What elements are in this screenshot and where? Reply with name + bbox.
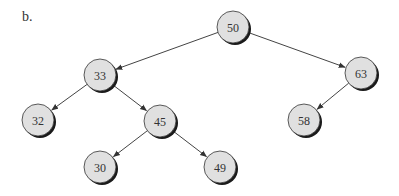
node-value: 49 — [214, 161, 226, 175]
tree-diagram: b. 5033633245583049 — [0, 0, 399, 196]
nodes: 5033633245583049 — [22, 11, 379, 185]
edge-45-to-49 — [173, 131, 207, 157]
edge-45-to-30 — [113, 131, 147, 157]
node-value: 33 — [94, 69, 106, 83]
node-value: 32 — [32, 114, 44, 128]
tree-node-50: 50 — [217, 11, 251, 45]
edge-50-to-63 — [248, 32, 345, 67]
tree-node-58: 58 — [288, 104, 322, 138]
node-value: 45 — [154, 115, 166, 129]
tree-node-45: 45 — [144, 105, 178, 139]
edge-63-to-58 — [317, 83, 349, 109]
tree-node-30: 30 — [84, 151, 118, 185]
edge-50-to-33 — [116, 32, 218, 69]
node-value: 63 — [355, 67, 367, 81]
edge-33-to-32 — [52, 84, 87, 110]
tree-canvas: 5033633245583049 — [0, 0, 399, 196]
node-value: 30 — [94, 161, 106, 175]
edges — [52, 32, 349, 156]
node-value: 50 — [227, 21, 239, 35]
tree-node-49: 49 — [204, 151, 238, 185]
node-value: 58 — [298, 114, 310, 128]
tree-node-33: 33 — [84, 59, 118, 93]
edge-33-to-45 — [113, 85, 147, 111]
tree-node-32: 32 — [22, 104, 56, 138]
tree-node-63: 63 — [345, 57, 379, 91]
